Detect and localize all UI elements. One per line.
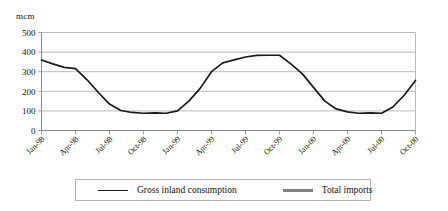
plot-axes xyxy=(39,33,416,135)
x-tick-label: Apr-00 xyxy=(329,135,352,158)
legend-item-total-imports: Total imports xyxy=(283,185,373,195)
x-tick-label: Apr-98 xyxy=(57,135,80,158)
y-tick-label: 0 xyxy=(31,126,36,136)
x-tick-label: Apr-99 xyxy=(193,135,216,158)
y-tick-label: 300 xyxy=(22,67,36,77)
chart-legend: Gross inland consumption Total imports xyxy=(75,179,371,201)
gridlines xyxy=(42,33,416,131)
x-tick-label: Oct-99 xyxy=(262,135,284,157)
x-tick-label: Oct-98 xyxy=(126,135,148,157)
legend-swatch-line-icon xyxy=(98,190,128,191)
y-tick-label: 100 xyxy=(22,106,36,116)
legend-item-gross-inland-consumption: Gross inland consumption xyxy=(98,185,237,195)
x-tick-label: Jul-00 xyxy=(366,135,387,156)
x-tick-label: Jan-00 xyxy=(297,135,319,157)
y-tick-label: 200 xyxy=(22,87,36,97)
x-tick-label: Jul-99 xyxy=(230,135,251,156)
legend-swatch-line-icon xyxy=(283,189,313,192)
x-tick-label: Jan-99 xyxy=(161,135,183,157)
x-tick-label: Oct-00 xyxy=(398,135,420,157)
y-tick-label: 500 xyxy=(22,28,36,38)
y-axis-ticks: 0100200300400500 xyxy=(22,28,36,136)
data-series xyxy=(42,55,416,113)
x-tick-label: Jul-98 xyxy=(94,135,115,156)
x-axis-ticks: Jan-98Apr-98Jul-98Oct-98Jan-99Apr-99Jul-… xyxy=(25,135,421,158)
series-line xyxy=(42,55,416,113)
legend-label-gross-inland-consumption: Gross inland consumption xyxy=(137,185,237,195)
legend-label-total-imports: Total imports xyxy=(322,185,373,195)
y-tick-label: 400 xyxy=(22,47,36,57)
x-tick-label: Jan-98 xyxy=(25,135,47,157)
chart-container: mcm 0100200300400500 Jan-98Apr-98Jul-98O… xyxy=(0,0,448,211)
